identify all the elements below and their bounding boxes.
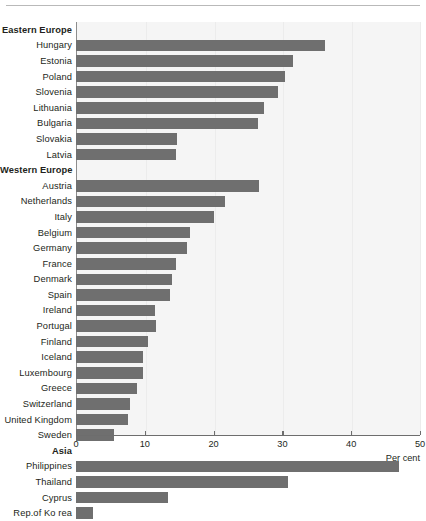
- bar[interactable]: [76, 133, 177, 145]
- bar-row[interactable]: Slovenia: [0, 84, 426, 100]
- x-tick-label: 30: [277, 439, 287, 449]
- bar-row[interactable]: Poland: [0, 69, 426, 85]
- category-label: France: [0, 259, 76, 269]
- bar[interactable]: [76, 242, 187, 254]
- bar[interactable]: [76, 180, 259, 192]
- bar-row[interactable]: Luxembourg: [0, 365, 426, 381]
- group-label: Asia: [0, 446, 76, 456]
- bar-row[interactable]: Germany: [0, 240, 426, 256]
- bar[interactable]: [76, 71, 285, 83]
- category-label: Italy: [0, 212, 76, 222]
- bar-row[interactable]: Denmark: [0, 272, 426, 288]
- bar-cell: [76, 303, 426, 319]
- bar[interactable]: [76, 367, 143, 379]
- category-label: Finland: [0, 337, 76, 347]
- bar[interactable]: [76, 118, 258, 130]
- group-header-row: Western Europe: [0, 162, 426, 178]
- category-label: Germany: [0, 243, 76, 253]
- bar[interactable]: [76, 492, 168, 504]
- category-label: Luxembourg: [0, 368, 76, 378]
- bar-row[interactable]: Portugal: [0, 318, 426, 334]
- bar[interactable]: [76, 414, 128, 426]
- bar-row[interactable]: Iceland: [0, 349, 426, 365]
- category-label: Philippines: [0, 461, 76, 471]
- bar[interactable]: [76, 305, 155, 317]
- x-tick: [214, 431, 215, 435]
- bar-cell: [76, 381, 426, 397]
- category-label: Belgium: [0, 228, 76, 238]
- bar-cell: [76, 459, 426, 475]
- x-tick: [420, 431, 421, 435]
- bar-row[interactable]: Spain: [0, 287, 426, 303]
- bar-cell: [76, 194, 426, 210]
- bar-row[interactable]: France: [0, 256, 426, 272]
- bar-row[interactable]: Lithuania: [0, 100, 426, 116]
- bar-row[interactable]: Philippines: [0, 459, 426, 475]
- category-label: Lithuania: [0, 103, 76, 113]
- bar-row[interactable]: Netherlands: [0, 194, 426, 210]
- bar-row[interactable]: Estonia: [0, 53, 426, 69]
- bar-cell: [76, 38, 426, 54]
- bar-cell: [76, 53, 426, 69]
- group-header-row: Eastern Europe: [0, 22, 426, 38]
- bar-cell: [76, 272, 426, 288]
- category-label: Slovenia: [0, 87, 76, 97]
- x-tick: [76, 431, 77, 435]
- bar[interactable]: [76, 289, 170, 301]
- bar-row[interactable]: Austria: [0, 178, 426, 194]
- bar-cell: [76, 474, 426, 490]
- bar[interactable]: [76, 86, 278, 98]
- bar[interactable]: [76, 55, 293, 67]
- bar[interactable]: [76, 476, 288, 488]
- category-label: Estonia: [0, 56, 76, 66]
- bar-cell: [76, 225, 426, 241]
- category-label: Sweden: [0, 430, 76, 440]
- bar[interactable]: [76, 398, 130, 410]
- bar-cell: [76, 69, 426, 85]
- bar[interactable]: [76, 258, 176, 270]
- category-label: Cyprus: [0, 493, 76, 503]
- bar-cell: [76, 100, 426, 116]
- bar-row[interactable]: Slovakia: [0, 131, 426, 147]
- bar[interactable]: [76, 149, 176, 161]
- category-label: Thailand: [0, 477, 76, 487]
- bar-row[interactable]: United Kingdom: [0, 412, 426, 428]
- bar[interactable]: [76, 40, 325, 52]
- bar-row[interactable]: Finland: [0, 334, 426, 350]
- bar[interactable]: [76, 211, 214, 223]
- bar-row[interactable]: Bulgaria: [0, 116, 426, 132]
- bar-cell: [76, 490, 426, 506]
- bar[interactable]: [76, 383, 137, 395]
- x-tick-label: 50: [415, 439, 425, 449]
- bar[interactable]: [76, 274, 172, 286]
- bar-cell: [76, 209, 426, 225]
- bar-row[interactable]: Greece: [0, 381, 426, 397]
- bar[interactable]: [76, 351, 143, 363]
- category-label: Austria: [0, 181, 76, 191]
- bar-row[interactable]: Italy: [0, 209, 426, 225]
- bar[interactable]: [76, 320, 156, 332]
- bar[interactable]: [76, 196, 225, 208]
- bar[interactable]: [76, 336, 148, 348]
- bar-row[interactable]: Belgium: [0, 225, 426, 241]
- bar-cell: [76, 131, 426, 147]
- bar-cell: [76, 240, 426, 256]
- bar-row[interactable]: Latvia: [0, 147, 426, 163]
- bar-row[interactable]: Cyprus: [0, 490, 426, 506]
- bar[interactable]: [76, 507, 93, 519]
- bar-row[interactable]: Rep.of Ko rea: [0, 505, 426, 521]
- bar[interactable]: [76, 227, 190, 239]
- bar-row[interactable]: Thailand: [0, 474, 426, 490]
- group-header-spacer: [76, 162, 426, 178]
- category-label: Netherlands: [0, 196, 76, 206]
- bar-cell: [76, 147, 426, 163]
- category-label: Hungary: [0, 40, 76, 50]
- bar[interactable]: [76, 461, 399, 473]
- bar-row[interactable]: Switzerland: [0, 396, 426, 412]
- bar-cell: [76, 116, 426, 132]
- bar[interactable]: [76, 102, 264, 114]
- bar-cell: [76, 365, 426, 381]
- bar-row[interactable]: Hungary: [0, 38, 426, 54]
- category-label: Spain: [0, 290, 76, 300]
- bar-row[interactable]: Ireland: [0, 303, 426, 319]
